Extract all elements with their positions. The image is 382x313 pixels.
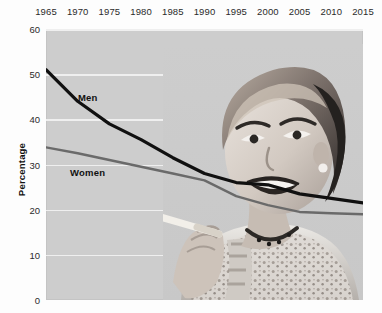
x-tick-2010: 2010 <box>321 6 343 17</box>
x-tick-2005: 2005 <box>289 6 311 17</box>
x-tick-1965: 1965 <box>35 6 57 17</box>
y-tick-50: 50 <box>14 69 40 80</box>
x-tick-1970: 1970 <box>67 6 89 17</box>
x-tick-1990: 1990 <box>194 6 216 17</box>
x-tick-2000: 2000 <box>257 6 279 17</box>
y-tick-10: 10 <box>14 249 40 260</box>
series-line-men <box>46 70 363 203</box>
series-label-women: Women <box>70 167 105 178</box>
y-tick-0: 0 <box>14 295 40 306</box>
y-tick-20: 20 <box>14 204 40 215</box>
x-tick-2015: 2015 <box>352 6 374 17</box>
x-tick-1995: 1995 <box>225 6 247 17</box>
plot-area: Men Women <box>46 29 363 300</box>
chart-figure: Percentage 19651970197519801985199019952… <box>0 0 382 313</box>
x-tick-1980: 1980 <box>130 6 152 17</box>
series-line-women <box>46 147 363 214</box>
x-tick-1985: 1985 <box>162 6 184 17</box>
data-series-lines <box>46 29 363 300</box>
y-tick-60: 60 <box>14 24 40 35</box>
x-tick-1975: 1975 <box>99 6 121 17</box>
y-tick-30: 30 <box>14 159 40 170</box>
y-tick-40: 40 <box>14 114 40 125</box>
series-label-men: Men <box>78 92 98 103</box>
